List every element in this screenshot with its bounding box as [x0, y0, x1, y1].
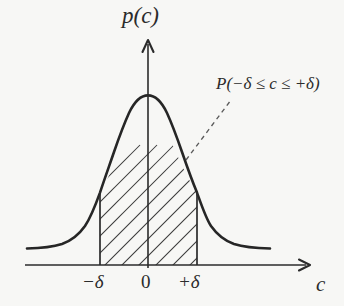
x-tick-label-positive-delta: +δ: [178, 272, 200, 291]
figure-canvas: [0, 0, 344, 306]
x-axis-label: c: [316, 274, 325, 295]
probability-annotation-label: P(−δ ≤ c ≤ +δ): [216, 75, 320, 92]
annotation-leader-line: [186, 100, 231, 160]
shaded-region-hatching: [20, 145, 344, 282]
x-tick-label-negative-delta: −δ: [82, 272, 104, 291]
x-tick-label-zero: 0: [141, 272, 151, 291]
y-axis-label: p(c): [122, 4, 159, 27]
probability-density-figure: p(c) c −δ 0 +δ P(−δ ≤ c ≤ +δ): [0, 0, 344, 306]
